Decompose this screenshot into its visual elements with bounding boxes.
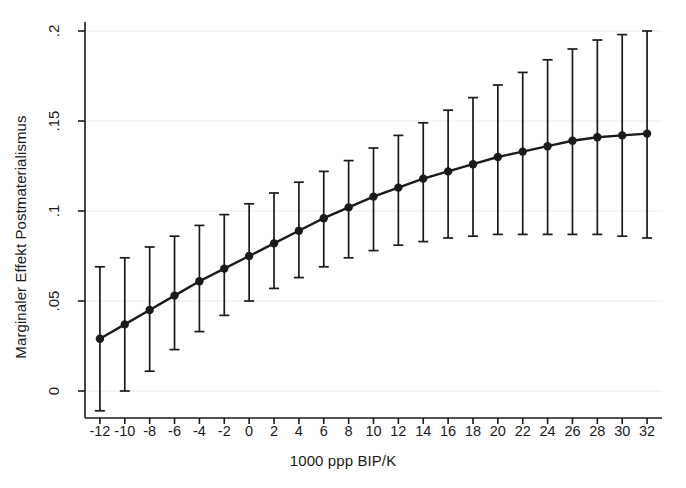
data-point-marker[interactable] — [519, 147, 527, 155]
data-point-marker[interactable] — [394, 183, 402, 191]
data-point-marker[interactable] — [618, 131, 626, 139]
data-point-marker[interactable] — [195, 277, 203, 285]
data-point-marker[interactable] — [568, 137, 576, 145]
data-point-marker[interactable] — [494, 153, 502, 161]
x-axis-title: 1000 ppp BIP/K — [0, 452, 686, 469]
data-point-marker[interactable] — [419, 174, 427, 182]
data-point-marker[interactable] — [96, 335, 104, 343]
data-point-marker[interactable] — [444, 167, 452, 175]
y-axis-tick-label: .15 — [45, 99, 63, 143]
y-axis-tick-label: .2 — [45, 9, 63, 53]
data-point-marker[interactable] — [270, 239, 278, 247]
data-point-marker[interactable] — [593, 133, 601, 141]
data-point-marker[interactable] — [245, 252, 253, 260]
data-point-marker[interactable] — [295, 227, 303, 235]
y-axis-tick-label: .1 — [45, 189, 63, 233]
data-point-marker[interactable] — [320, 214, 328, 222]
data-point-marker[interactable] — [170, 291, 178, 299]
data-point-marker[interactable] — [145, 306, 153, 314]
data-point-marker[interactable] — [344, 203, 352, 211]
data-point-marker[interactable] — [369, 192, 377, 200]
y-axis-tick-label: .05 — [45, 279, 63, 323]
data-point-marker[interactable] — [469, 160, 477, 168]
data-point-marker[interactable] — [543, 142, 551, 150]
chart-figure: Marginaler Effekt Postmaterialismus 0.05… — [0, 0, 686, 488]
data-point-marker[interactable] — [643, 129, 651, 137]
y-axis-tick-label: 0 — [45, 369, 63, 413]
x-axis-title-text: 1000 ppp BIP/K — [290, 452, 396, 469]
plot-canvas — [0, 0, 686, 488]
data-point-marker[interactable] — [220, 264, 228, 272]
data-point-marker[interactable] — [121, 320, 129, 328]
x-axis-tick-label: 32 — [627, 423, 667, 439]
